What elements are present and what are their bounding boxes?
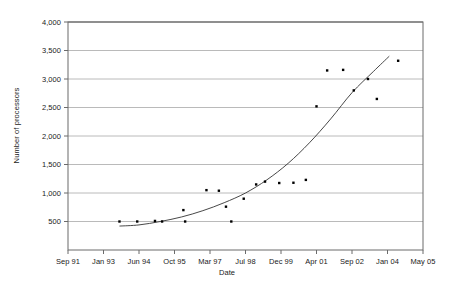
data-point	[184, 220, 186, 222]
data-point	[161, 220, 163, 222]
y-tick-label: 3,000	[42, 75, 61, 84]
x-axis-tick-labels: Sep 91Jan 93Jun 94Oct 95Mar 97Jul 98Dec …	[56, 257, 435, 266]
x-tick-label: Sep 91	[56, 257, 80, 266]
data-point	[118, 220, 120, 222]
data-point	[305, 179, 307, 181]
x-tick-label: Mar 97	[198, 257, 222, 266]
data-point	[230, 220, 232, 222]
y-axis-tick-labels: 5001,0001,5002,0002,5003,0003,5004,000	[42, 18, 61, 227]
data-point	[264, 180, 266, 182]
data-point	[353, 89, 355, 91]
y-tick-label: 1,500	[42, 160, 61, 169]
data-point	[315, 105, 317, 107]
x-tick-label: Jan 04	[376, 257, 399, 266]
x-tick-label: Apr 01	[305, 257, 327, 266]
x-tick-label: Jun 94	[128, 257, 151, 266]
plot-area: 5001,0001,5002,0002,5003,0003,5004,000 S…	[0, 0, 454, 290]
trendline-curve	[119, 56, 389, 226]
y-tick-label: 500	[48, 217, 61, 226]
x-tick-label: May 05	[411, 257, 436, 266]
x-tick-label: Jul 98	[235, 257, 255, 266]
x-tick-label: Jan 93	[92, 257, 115, 266]
y-tick-label: 2,500	[42, 103, 61, 112]
data-point	[278, 182, 280, 184]
chart-container: Number of processors Date 5001,0001,5002…	[0, 0, 454, 290]
data-point	[225, 205, 227, 207]
data-point	[154, 220, 156, 222]
x-axis-tick-marks	[68, 250, 423, 254]
data-point	[397, 60, 399, 62]
data-point	[292, 182, 294, 184]
data-point	[326, 69, 328, 71]
data-point	[255, 183, 257, 185]
y-tick-label: 4,000	[42, 18, 61, 27]
y-tick-label: 1,000	[42, 189, 61, 198]
y-tick-label: 3,500	[42, 46, 61, 55]
gridlines	[68, 22, 423, 222]
data-point	[205, 189, 207, 191]
data-point	[342, 69, 344, 71]
scatter-points	[118, 60, 399, 223]
x-tick-label: Oct 95	[163, 257, 185, 266]
x-tick-label: Sep 02	[340, 257, 364, 266]
x-tick-label: Dec 99	[269, 257, 293, 266]
data-point	[367, 78, 369, 80]
data-point	[376, 98, 378, 100]
data-point	[136, 220, 138, 222]
data-point	[182, 209, 184, 211]
data-point	[218, 190, 220, 192]
y-tick-label: 2,000	[42, 132, 61, 141]
data-point	[243, 198, 245, 200]
y-axis-tick-marks	[64, 22, 68, 222]
